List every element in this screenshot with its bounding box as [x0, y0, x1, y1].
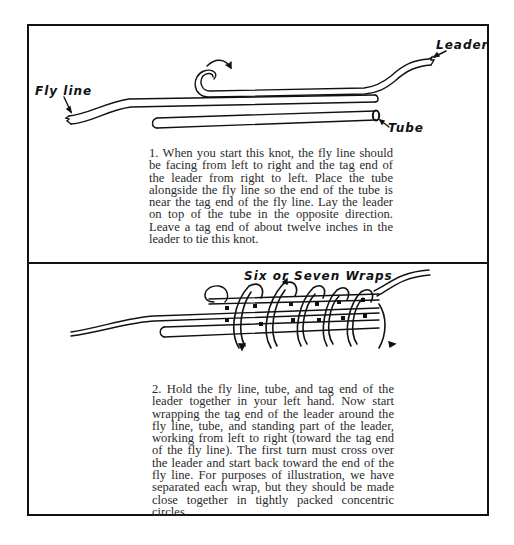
step-1-caption: 1. When you start this knot, the fly lin… — [149, 147, 393, 245]
tube-label: Tube — [388, 121, 424, 135]
instruction-frame: Leader Fly line Tube 1. When you start t… — [27, 24, 489, 516]
step-2-panel: Six or Seven Wraps 2. Hold the fly line,… — [29, 262, 487, 516]
step-1-panel: Leader Fly line Tube 1. When you start t… — [29, 26, 487, 264]
step-2-caption: 2. Hold the fly line, tube, and tag end … — [152, 383, 394, 518]
fly-line-label: Fly line — [35, 84, 92, 98]
wraps-label: Six or Seven Wraps — [244, 269, 393, 283]
leader-label: Leader — [436, 38, 489, 52]
